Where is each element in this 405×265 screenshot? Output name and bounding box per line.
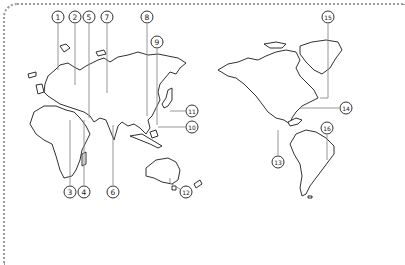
callout-number: 2 [73, 13, 78, 22]
callout-number: 4 [82, 188, 87, 197]
callout-number: 16 [323, 125, 331, 132]
callout-number: 12 [182, 189, 190, 196]
callout-13: 13 [272, 130, 284, 168]
callout-number: 7 [105, 13, 110, 22]
callout-number: 13 [274, 159, 282, 166]
callout-10: 10 [158, 121, 198, 133]
callout-number: 3 [68, 188, 73, 197]
callout-number: 14 [342, 105, 350, 112]
callout-number: 15 [324, 14, 332, 21]
callout-1: 1 [52, 11, 64, 70]
callout-number: 8 [145, 13, 150, 22]
callout-number: 1 [56, 13, 61, 22]
callout-number: 6 [111, 188, 116, 197]
callout-number: 10 [188, 124, 196, 131]
callout-6: 6 [107, 125, 119, 198]
landmass-africa [30, 106, 90, 178]
callout-14: 14 [300, 102, 352, 114]
callout-number: 5 [87, 13, 92, 22]
landmass-north-america [218, 40, 342, 126]
callout-11: 11 [170, 105, 198, 117]
callout-number: 11 [188, 108, 196, 115]
callout-number: 9 [155, 38, 160, 47]
